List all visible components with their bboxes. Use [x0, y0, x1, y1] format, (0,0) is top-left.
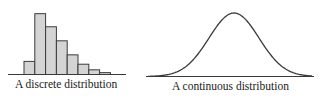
histogram-bar: [35, 14, 46, 75]
discrete-histogram: [24, 14, 110, 75]
histogram-bar: [24, 61, 35, 74]
histogram-bar: [78, 64, 89, 74]
histogram-bar: [67, 55, 78, 75]
histogram-bar: [56, 41, 67, 75]
continuous-curve: [148, 13, 312, 76]
histogram-bar: [89, 70, 100, 75]
continuous-label: A continuous distribution: [172, 80, 289, 92]
discrete-label: A discrete distribution: [15, 78, 117, 90]
histogram-bar: [46, 27, 57, 75]
